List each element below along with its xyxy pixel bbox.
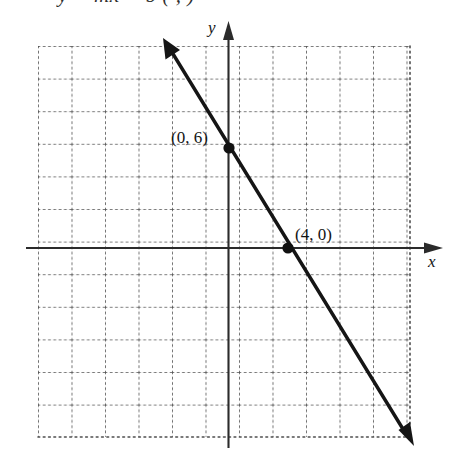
y-axis-label: y <box>208 18 216 38</box>
x-axis-label: x <box>428 252 436 272</box>
grid-lines <box>38 46 410 437</box>
data-point-x-intercept <box>282 242 293 253</box>
data-point-y-intercept <box>223 142 234 153</box>
x-intercept-point-label: (4, 0) <box>295 225 332 245</box>
coordinate-plane-graph: y x (0, 6) (4, 0) <box>0 0 451 466</box>
y-intercept-point-label: (0, 6) <box>171 128 208 148</box>
